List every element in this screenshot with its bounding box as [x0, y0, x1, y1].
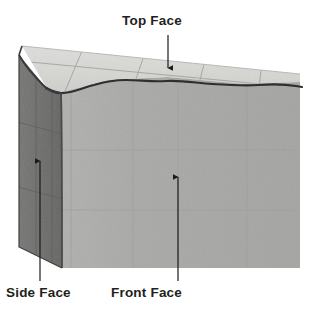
top-left-corner-edge — [19, 46, 22, 55]
front-face-shape — [58, 70, 304, 270]
figure-canvas: Top Face Side Face Front Face — [0, 0, 314, 315]
side-front-vertical-edge — [61, 93, 62, 268]
top-face-label: Top Face — [122, 14, 182, 28]
block-diagram-illustration — [0, 0, 314, 315]
front-face-label: Front Face — [111, 286, 182, 300]
side-face-label: Side Face — [6, 286, 71, 300]
